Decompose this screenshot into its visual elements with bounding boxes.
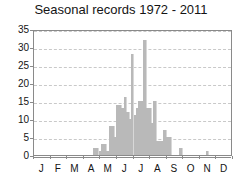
bar [206,151,209,155]
x-tick-mark-9 [182,156,183,159]
x-tick-label-6: J [134,163,148,175]
y-tick-label-20: 20 [18,79,29,89]
chart-title: Seasonal records 1972 - 2011 [0,2,242,17]
x-tick-mark-7 [149,156,150,159]
x-tick-mark-5 [116,156,117,159]
y-axis: 05101520253035 [0,30,33,156]
bar [179,148,182,155]
y-tick-label-30: 30 [18,43,29,53]
plot-area [33,30,232,156]
x-tick-mark-8 [166,156,167,159]
y-tick-label-15: 15 [18,97,29,107]
x-tick-label-5: J [117,163,131,175]
x-tick-mark-0 [33,156,34,159]
y-tick-label-0: 0 [23,151,29,161]
x-tick-label-3: A [84,163,98,175]
y-tick-label-35: 35 [18,25,29,35]
x-tick-label-10: N [200,163,214,175]
x-tick-label-2: M [67,163,81,175]
x-tick-mark-12 [232,156,233,159]
y-tick-label-25: 25 [18,61,29,71]
x-tick-mark-1 [50,156,51,159]
bar [168,137,171,155]
x-tick-label-9: O [184,163,198,175]
x-tick-mark-10 [199,156,200,159]
y-tick-label-10: 10 [18,115,29,125]
x-tick-label-0: J [34,163,48,175]
x-axis: JFMAMJJASOND [33,156,232,180]
x-tick-label-1: F [51,163,65,175]
x-tick-mark-2 [66,156,67,159]
x-tick-mark-3 [83,156,84,159]
x-tick-mark-11 [215,156,216,159]
x-tick-label-8: S [167,163,181,175]
x-tick-mark-6 [133,156,134,159]
x-tick-label-11: D [217,163,231,175]
chart-container: Seasonal records 1972 - 2011 05101520253… [0,0,242,182]
bar-series [34,31,231,155]
y-tick-label-5: 5 [23,133,29,143]
x-tick-label-4: M [101,163,115,175]
x-tick-label-7: A [150,163,164,175]
x-tick-mark-4 [99,156,100,159]
